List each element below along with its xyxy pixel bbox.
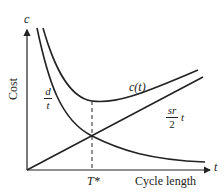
total-cost-curve (43, 28, 198, 102)
optimum-label: T* (87, 174, 100, 189)
ordering-cost-curve (37, 28, 205, 162)
y-axis-label: Cost (6, 78, 21, 100)
y-axis-symbol: c (24, 12, 29, 27)
holding-cost-label: sr 2 t (166, 105, 184, 130)
cost-diagram (0, 0, 224, 192)
total-cost-label: c(t) (129, 80, 146, 95)
ordering-cost-label: d t (44, 86, 52, 111)
x-axis-label: Cycle length (135, 174, 196, 189)
x-axis-symbol: t (214, 160, 217, 175)
